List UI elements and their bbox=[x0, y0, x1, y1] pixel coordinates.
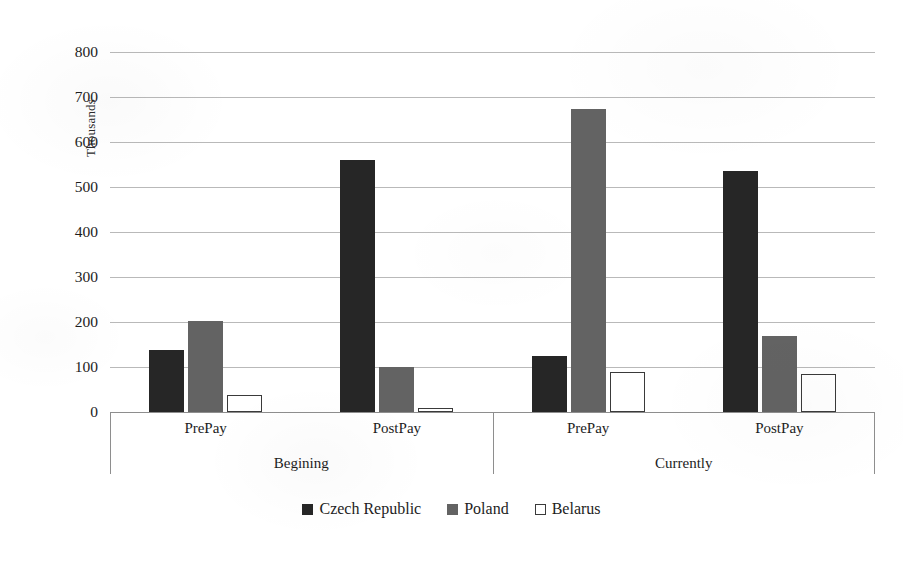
y-tick-label-700: 700 bbox=[46, 89, 98, 105]
outlined-white-square-icon bbox=[535, 504, 546, 515]
category-label-0: PrePay bbox=[110, 420, 301, 437]
category-axis: PrePayPostPayPrePayPostPayBeginingCurren… bbox=[110, 412, 875, 490]
bar-czech-2 bbox=[532, 356, 567, 412]
category-label-3: PostPay bbox=[684, 420, 875, 437]
filled-gray-square-icon bbox=[447, 504, 458, 515]
bar-belarus-2 bbox=[610, 372, 645, 413]
category-label-2: PrePay bbox=[493, 420, 684, 437]
y-tick-label-500: 500 bbox=[46, 179, 98, 195]
gridline-800 bbox=[110, 52, 875, 53]
legend-label-czech: Czech Republic bbox=[319, 500, 421, 518]
gridline-500 bbox=[110, 187, 875, 188]
plot-area bbox=[110, 52, 875, 412]
y-tick-label-600: 600 bbox=[46, 134, 98, 150]
category-label-1: PostPay bbox=[301, 420, 492, 437]
legend-item-belarus: Belarus bbox=[535, 500, 601, 518]
legend-item-poland: Poland bbox=[447, 500, 508, 518]
axis-separator-2 bbox=[874, 412, 875, 474]
bar-poland-2 bbox=[571, 109, 606, 412]
axis-separator-0 bbox=[110, 412, 111, 474]
y-axis-tick-labels: 8007006005004003002001000 bbox=[46, 52, 98, 412]
bar-czech-1 bbox=[340, 160, 375, 412]
bar-poland-3 bbox=[762, 336, 797, 413]
bar-poland-0 bbox=[188, 321, 223, 412]
gridline-600 bbox=[110, 142, 875, 143]
gridline-200 bbox=[110, 322, 875, 323]
legend-label-belarus: Belarus bbox=[552, 500, 601, 518]
y-tick-label-0: 0 bbox=[46, 404, 98, 420]
gridline-300 bbox=[110, 277, 875, 278]
y-tick-label-300: 300 bbox=[46, 269, 98, 285]
group-label-1: Currently bbox=[493, 455, 876, 472]
legend-label-poland: Poland bbox=[464, 500, 508, 518]
gridline-700 bbox=[110, 97, 875, 98]
bar-chart: Thousands 8007006005004003002001000 PreP… bbox=[0, 0, 903, 562]
filled-black-square-icon bbox=[302, 504, 313, 515]
bar-belarus-3 bbox=[801, 374, 836, 412]
group-label-0: Begining bbox=[110, 455, 493, 472]
y-tick-label-200: 200 bbox=[46, 314, 98, 330]
chart-legend: Czech RepublicPolandBelarus bbox=[0, 500, 903, 518]
bar-czech-3 bbox=[723, 171, 758, 412]
gridline-100 bbox=[110, 367, 875, 368]
y-tick-label-100: 100 bbox=[46, 359, 98, 375]
bar-poland-1 bbox=[379, 367, 414, 412]
bar-czech-0 bbox=[149, 350, 184, 412]
gridline-400 bbox=[110, 232, 875, 233]
axis-separator-1 bbox=[493, 412, 494, 474]
legend-item-czech: Czech Republic bbox=[302, 500, 421, 518]
y-tick-label-400: 400 bbox=[46, 224, 98, 240]
y-tick-label-800: 800 bbox=[46, 44, 98, 60]
bar-belarus-0 bbox=[227, 395, 262, 412]
